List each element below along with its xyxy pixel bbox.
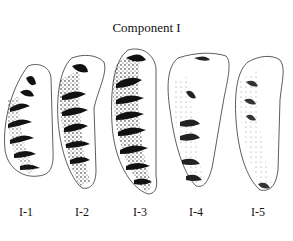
specimen-i-3 [112, 49, 157, 194]
specimen-label-i-4: I-4 [176, 205, 216, 220]
specimen-label-i-2: I-2 [62, 205, 102, 220]
specimen-i-5 [236, 56, 284, 190]
specimen-label-i-5: I-5 [238, 205, 278, 220]
specimen-i-2 [58, 55, 105, 188]
specimen-label-i-3: I-3 [120, 205, 160, 220]
specimen-label-i-1: I-1 [6, 205, 46, 220]
specimen-i-1 [5, 65, 54, 177]
specimen-i-4 [168, 53, 229, 186]
